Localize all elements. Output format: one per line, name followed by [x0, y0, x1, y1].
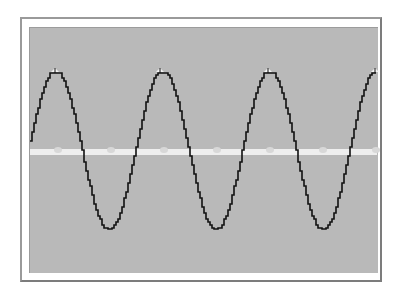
- peak-markers: [51, 68, 379, 73]
- sine-wave-plot: [0, 0, 403, 298]
